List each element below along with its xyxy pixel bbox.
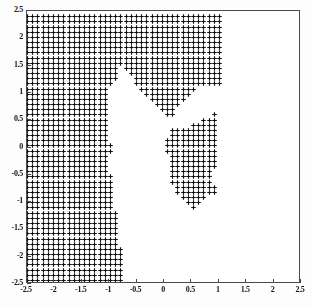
y-tick: [27, 37, 31, 38]
x-tick-label: 2.5: [295, 286, 304, 294]
y-tick-label: 2.5: [14, 6, 23, 14]
x-tick-label: -2.5: [20, 286, 31, 294]
chart-figure: -2.5-2-1.5-1-0.500.511.522.5 2.521.510.5…: [0, 0, 312, 306]
x-tick-label: -1.5: [75, 286, 86, 294]
x-tick: [108, 279, 109, 283]
y-tick: [27, 65, 31, 66]
x-tick: [218, 279, 219, 283]
x-tick-label: 1.5: [241, 286, 250, 294]
y-tick-label: -2.5: [12, 279, 23, 287]
y-tick: [27, 147, 31, 148]
y-tick-label: 1: [19, 88, 23, 96]
plot-area: [26, 10, 300, 283]
x-tick: [300, 279, 301, 283]
y-tick: [27, 228, 31, 229]
x-tick-label: -1: [105, 286, 111, 294]
x-tick: [81, 279, 82, 283]
y-tick: [27, 119, 31, 120]
y-tick: [27, 283, 31, 284]
y-tick: [27, 201, 31, 202]
x-tick-label: 0.5: [186, 286, 195, 294]
x-tick: [190, 279, 191, 283]
x-tick-label: -0.5: [130, 286, 141, 294]
y-tick-label: -1.5: [12, 224, 23, 232]
x-tick: [163, 279, 164, 283]
y-tick-label: 0.5: [14, 115, 23, 123]
y-tick-label: -0.5: [12, 170, 23, 178]
x-tick-label: 1: [216, 286, 220, 294]
scatter-marker-canvas: [27, 11, 300, 283]
x-tick: [245, 279, 246, 283]
y-tick-label: -1: [17, 197, 23, 205]
y-tick: [27, 10, 31, 11]
x-tick: [136, 279, 137, 283]
x-tick-label: 0: [161, 286, 165, 294]
y-tick-label: 0: [19, 143, 23, 151]
y-tick-label: 2: [19, 33, 23, 41]
x-tick-label: -2: [50, 286, 56, 294]
y-tick: [27, 174, 31, 175]
x-tick: [273, 279, 274, 283]
y-tick: [27, 256, 31, 257]
y-tick-label: 1.5: [14, 61, 23, 69]
y-tick: [27, 92, 31, 93]
x-tick-label: 2: [271, 286, 275, 294]
y-tick-label: -2: [17, 252, 23, 260]
x-tick: [53, 279, 54, 283]
